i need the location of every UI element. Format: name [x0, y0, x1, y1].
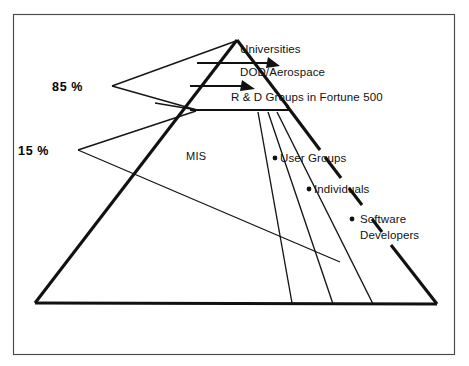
pyramid-right-edge-seg6: [391, 245, 437, 304]
label-software-developers-line1: Software: [360, 213, 406, 225]
label-dod-aerospace: DOD/Aerospace: [240, 66, 325, 78]
bullet-individuals-icon: [307, 187, 312, 192]
figure-root: 85 % 15 % Universities DOD/Aerospace R &…: [0, 0, 469, 366]
label-individuals: Individuals: [314, 183, 370, 195]
label-user-groups: User Groups: [280, 152, 346, 164]
label-85-percent: 85 %: [52, 80, 83, 94]
callout-arrow-dod-head: [240, 80, 255, 91]
label-mis: MIS: [186, 150, 206, 162]
wedge-line-1: [258, 112, 292, 303]
bullet-software-developers-icon: [350, 217, 355, 222]
pyramid-diagram: 85 % 15 % Universities DOD/Aerospace R &…: [0, 0, 469, 366]
bracket-15-lower-arm: [78, 150, 340, 262]
label-software-developers-line2: Developers: [360, 229, 419, 241]
bracket-15-upper-arm: [78, 111, 196, 150]
wedge-line-3: [277, 112, 373, 304]
label-15-percent: 15 %: [18, 144, 49, 158]
wedge-line-2: [268, 112, 333, 304]
bracket-85-lower-arm: [112, 86, 197, 110]
label-rnd-groups: R & D Groups in Fortune 500: [231, 91, 383, 103]
label-universities: Universities: [240, 43, 301, 55]
bullet-user-groups-icon: [273, 156, 278, 161]
pyramid-base-edge: [35, 303, 437, 304]
